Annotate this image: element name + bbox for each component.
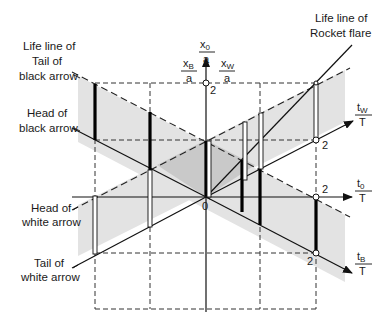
svg-text:a: a <box>224 72 231 84</box>
svg-text:tW: tW <box>357 101 368 115</box>
svg-text:a: a <box>186 72 193 84</box>
svg-text:x0: x0 <box>200 38 211 52</box>
label-black-arrow-tail: black arrow <box>19 70 78 82</box>
svg-text:xB: xB <box>183 57 194 71</box>
label-white-arrow-tail: white arrow <box>20 271 80 283</box>
label-head-of-white: Head of <box>31 202 72 214</box>
label-head-of-black: Head of <box>27 107 68 119</box>
svg-text:T: T <box>359 265 366 277</box>
x0-tick-2: 2 <box>210 84 216 96</box>
origin-label: 0 <box>202 200 208 212</box>
tB-axis-label: tB T <box>355 250 372 277</box>
label-black-arrow-head: black arrow <box>19 122 78 134</box>
t0-axis-label: t0 T <box>355 177 372 204</box>
tW-tick-2: 2 <box>322 139 328 151</box>
t0-tick-2: 2 <box>322 183 328 195</box>
label-tail-of: Tail of <box>32 55 63 67</box>
tW-axis-label: tW T <box>355 101 372 128</box>
svg-text:T: T <box>359 192 366 204</box>
svg-text:a: a <box>203 53 210 65</box>
svg-text:xW: xW <box>221 57 235 71</box>
svg-text:tB: tB <box>357 250 365 264</box>
label-life-line-of: Life line of <box>23 40 76 52</box>
label-white-arrow-head: white arrow <box>21 216 81 228</box>
svg-text:t0: t0 <box>357 177 365 191</box>
xB-axis-label: xB a <box>181 57 197 84</box>
x0-axis-label: x0 a <box>199 38 215 65</box>
label-rocket-life-line: Life line of <box>315 12 368 24</box>
tB-tick-2: 2 <box>307 255 313 267</box>
spacetime-diagram: 0 2 2 2 2 x0 a xB a xW a tW T t0 T tB T … <box>0 0 388 327</box>
svg-text:T: T <box>359 116 366 128</box>
xW-axis-label: xW a <box>219 57 235 84</box>
label-rocket-flare: Rocket flare <box>310 27 371 39</box>
label-tail-of-white: Tail of <box>34 257 65 269</box>
